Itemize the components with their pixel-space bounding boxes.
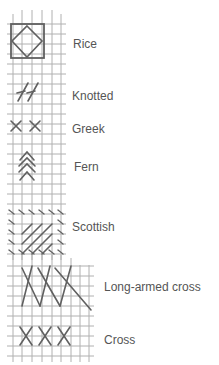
rice-stitch-icon bbox=[11, 24, 44, 58]
label-greek: Greek bbox=[72, 122, 105, 136]
greek-stitch-icon bbox=[11, 121, 40, 131]
label-scottish: Scottish bbox=[72, 220, 115, 234]
label-long-armed-cross: Long-armed cross bbox=[104, 280, 201, 294]
scottish-stitch-icon bbox=[9, 210, 63, 254]
fern-stitch-icon bbox=[19, 152, 35, 180]
grid-lines bbox=[7, 10, 94, 362]
label-rice: Rice bbox=[73, 37, 97, 51]
knotted-stitch-icon bbox=[17, 83, 38, 101]
stitch-grid-diagram bbox=[0, 0, 219, 365]
label-fern: Fern bbox=[74, 160, 99, 174]
label-cross: Cross bbox=[104, 333, 135, 347]
label-knotted: Knotted bbox=[72, 89, 113, 103]
